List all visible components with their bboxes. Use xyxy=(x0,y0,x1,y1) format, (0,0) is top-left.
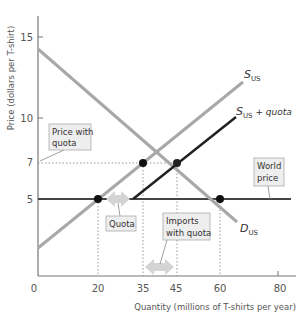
supply-label: SUS xyxy=(244,68,261,83)
svg-text:with quota: with quota xyxy=(166,228,211,238)
x-tick-45: 45 xyxy=(170,283,183,294)
y-tick-10: 10 xyxy=(20,113,33,124)
demand-label: DUS xyxy=(240,222,259,237)
point-demand-world xyxy=(216,195,224,203)
point-supply-quota xyxy=(139,159,147,167)
y-tick-7: 7 xyxy=(27,157,33,168)
quota-callout: Quota xyxy=(106,203,136,231)
world-price-callout: World price xyxy=(254,158,284,199)
svg-text:Imports: Imports xyxy=(166,216,199,226)
point-domestic-supply-world xyxy=(94,195,102,203)
imports-arrow xyxy=(145,259,174,275)
x-tick-20: 20 xyxy=(92,283,105,294)
svg-text:quota: quota xyxy=(52,138,77,148)
supply-quota-label: SUS + quota xyxy=(236,105,292,120)
x-axis-title: Quantity (millions of T-shirts per year) xyxy=(134,302,296,312)
point-quota-equilibrium xyxy=(173,159,181,167)
svg-text:World: World xyxy=(257,161,281,171)
price-with-quota-callout: Price with quota xyxy=(40,124,93,161)
y-tick-5: 5 xyxy=(27,194,33,205)
imports-with-quota-callout: Imports with quota xyxy=(160,213,211,264)
x-tick-0: 0 xyxy=(31,283,37,294)
x-tick-35: 35 xyxy=(137,283,150,294)
svg-text:Price with: Price with xyxy=(52,127,93,137)
svg-text:price: price xyxy=(257,173,278,183)
x-tick-80: 80 xyxy=(274,283,287,294)
x-tick-60: 60 xyxy=(214,283,227,294)
quota-chart: 15 10 7 5 0 20 35 45 60 80 Price (dollar… xyxy=(0,0,300,317)
y-axis-title: Price (dollars per T-shirt) xyxy=(6,26,16,131)
svg-text:Quota: Quota xyxy=(109,219,135,229)
y-tick-15: 15 xyxy=(20,32,33,43)
